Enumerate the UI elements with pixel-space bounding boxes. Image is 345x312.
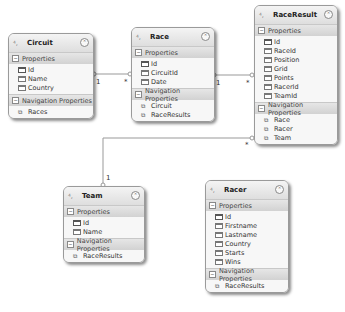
scalar-property-icon bbox=[141, 70, 149, 76]
scalar-property-icon bbox=[264, 75, 272, 81]
scalar-property-icon bbox=[215, 259, 223, 265]
entity-title: Circuit bbox=[27, 39, 53, 47]
minus-toggle-icon[interactable]: − bbox=[258, 105, 265, 112]
entity-race[interactable]: ⁴⸴ Race ⌃ − Properties Id CircuitId Date… bbox=[131, 27, 215, 122]
navigation-property-icon: ⧉ bbox=[141, 111, 148, 118]
property-item[interactable]: Name bbox=[64, 227, 144, 236]
properties-section-header[interactable]: − Properties bbox=[9, 52, 93, 64]
property-item[interactable]: Id bbox=[132, 59, 214, 68]
property-label: Firstname bbox=[225, 222, 257, 230]
navigation-section-header[interactable]: − Navigation Properties bbox=[132, 88, 214, 100]
collapse-icon[interactable]: ⌃ bbox=[80, 38, 89, 47]
property-label: Id bbox=[28, 66, 34, 74]
minus-toggle-icon[interactable]: − bbox=[135, 49, 142, 56]
navigation-item[interactable]: ⧉Team bbox=[255, 133, 337, 142]
property-item[interactable]: TeamId bbox=[255, 91, 337, 100]
entity-header[interactable]: ⁴⸴ RaceResult ⌃ bbox=[255, 6, 337, 24]
entity-raceresult[interactable]: ⁴⸴ RaceResult ⌃ − Properties Id RaceId P… bbox=[254, 5, 338, 145]
navigation-label: Circuit bbox=[151, 102, 172, 110]
minus-toggle-icon[interactable]: − bbox=[135, 91, 142, 98]
collapse-icon[interactable]: ⌃ bbox=[324, 10, 333, 19]
property-item[interactable]: RacerId bbox=[255, 82, 337, 91]
navigation-section-header[interactable]: − Navigation Properties bbox=[255, 102, 337, 114]
navigation-label: RaceResults bbox=[225, 282, 264, 290]
property-label: Date bbox=[151, 78, 167, 86]
navigation-section-header[interactable]: − Navigation Properties bbox=[9, 94, 93, 106]
key-property-icon bbox=[215, 214, 223, 220]
property-label: Points bbox=[274, 74, 294, 82]
entity-circuit[interactable]: ⁴⸴ Circuit ⌃ − Properties Id Name Countr… bbox=[8, 33, 94, 119]
properties-section-header[interactable]: − Properties bbox=[64, 205, 144, 217]
scalar-property-icon bbox=[18, 76, 26, 82]
minus-toggle-icon[interactable]: − bbox=[12, 97, 19, 104]
section-label: Navigation Properties bbox=[145, 87, 214, 103]
navigation-property-icon: ⧉ bbox=[18, 108, 25, 115]
properties-section-header[interactable]: − Properties bbox=[206, 199, 288, 211]
navigation-section-header[interactable]: − Navigation Properties bbox=[206, 268, 288, 280]
property-item[interactable]: Id bbox=[9, 65, 93, 74]
entity-team[interactable]: ⁴⸴ Team ⌃ − Properties Id Name − Navigat… bbox=[63, 186, 145, 263]
property-label: Lastname bbox=[225, 231, 257, 239]
property-item[interactable]: Id bbox=[64, 218, 144, 227]
properties-section-header[interactable]: − Properties bbox=[132, 46, 214, 58]
navigation-label: Racer bbox=[274, 125, 293, 133]
property-label: Id bbox=[274, 38, 280, 46]
section-label: Properties bbox=[22, 55, 55, 63]
properties-section-header[interactable]: − Properties bbox=[255, 24, 337, 36]
property-item[interactable]: Id bbox=[255, 37, 337, 46]
entity-header[interactable]: ⁴⸴ Race ⌃ bbox=[132, 28, 214, 46]
key-property-icon bbox=[73, 220, 81, 226]
minus-toggle-icon[interactable]: − bbox=[67, 208, 74, 215]
property-item[interactable]: Date bbox=[132, 77, 214, 86]
entity-header[interactable]: ⁴⸴ Circuit ⌃ bbox=[9, 34, 93, 52]
collapse-icon[interactable]: ⌃ bbox=[201, 32, 210, 41]
property-label: Grid bbox=[274, 65, 288, 73]
collapse-icon[interactable]: ⌃ bbox=[275, 185, 284, 194]
entity-header[interactable]: ⁴⸴ Team ⌃ bbox=[64, 187, 144, 205]
section-label: Properties bbox=[219, 202, 252, 210]
property-item[interactable]: RaceId bbox=[255, 46, 337, 55]
property-label: Wins bbox=[225, 258, 241, 266]
navigation-section-header[interactable]: − Navigation Properties bbox=[64, 238, 144, 250]
property-label: Name bbox=[28, 75, 47, 83]
entity-header[interactable]: ⁴⸴ Racer ⌃ bbox=[206, 181, 288, 199]
entity-title: Race bbox=[150, 33, 169, 41]
multiplicity-race-result-many: * bbox=[246, 79, 250, 87]
property-item[interactable]: Lastname bbox=[206, 230, 288, 239]
property-label: RacerId bbox=[274, 83, 299, 91]
minus-toggle-icon[interactable]: − bbox=[12, 55, 19, 62]
property-item[interactable]: Country bbox=[9, 83, 93, 92]
navigation-item[interactable]: ⧉Racer bbox=[255, 124, 337, 133]
navigation-item[interactable]: ⧉RaceResults bbox=[132, 110, 214, 119]
property-item[interactable]: Firstname bbox=[206, 221, 288, 230]
collapse-icon[interactable]: ⌃ bbox=[131, 191, 140, 200]
scalar-property-icon bbox=[215, 241, 223, 247]
property-item[interactable]: Country bbox=[206, 239, 288, 248]
property-item[interactable]: Name bbox=[9, 74, 93, 83]
scalar-property-icon bbox=[264, 93, 272, 99]
property-item[interactable]: Points bbox=[255, 73, 337, 82]
property-item[interactable]: Position bbox=[255, 55, 337, 64]
minus-toggle-icon[interactable]: − bbox=[258, 27, 265, 34]
property-item[interactable]: Starts bbox=[206, 248, 288, 257]
property-label: RaceId bbox=[274, 47, 296, 55]
navigation-property-icon: ⧉ bbox=[73, 252, 80, 259]
minus-toggle-icon[interactable]: − bbox=[209, 202, 216, 209]
property-item[interactable]: Wins bbox=[206, 257, 288, 266]
property-label: Id bbox=[83, 219, 89, 227]
scalar-property-icon bbox=[141, 79, 149, 85]
property-item[interactable]: Id bbox=[206, 212, 288, 221]
navigation-label: Team bbox=[274, 134, 291, 142]
navigation-item[interactable]: ⧉Races bbox=[9, 107, 93, 116]
property-item[interactable]: CircuitId bbox=[132, 68, 214, 77]
navigation-label: RaceResults bbox=[151, 111, 190, 119]
navigation-label: Race bbox=[274, 116, 290, 124]
entity-racer[interactable]: ⁴⸴ Racer ⌃ − Properties Id Firstname Las… bbox=[205, 180, 289, 293]
entity-icon: ⁴⸴ bbox=[68, 192, 78, 201]
scalar-property-icon bbox=[264, 57, 272, 63]
minus-toggle-icon[interactable]: − bbox=[209, 271, 216, 278]
property-label: Country bbox=[225, 240, 251, 248]
property-item[interactable]: Grid bbox=[255, 64, 337, 73]
minus-toggle-icon[interactable]: − bbox=[67, 241, 74, 248]
navigation-label: Races bbox=[28, 108, 47, 116]
